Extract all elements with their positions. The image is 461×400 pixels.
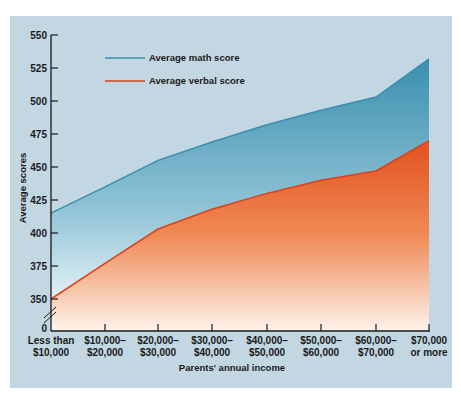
y-tick-label: 500	[30, 96, 47, 107]
legend-verbal-label: Average verbal score	[149, 75, 245, 86]
x-tick-label: $40,000–	[246, 335, 288, 346]
x-tick-label: $40,000	[194, 347, 231, 358]
y-tick-label: 475	[30, 129, 47, 140]
plot-areas	[51, 59, 429, 331]
y-tick-label: 350	[30, 294, 47, 305]
x-tick-label: $60,000	[303, 347, 340, 358]
y-tick-label: 0	[41, 323, 47, 334]
y-tick-label: 400	[30, 228, 47, 239]
y-tick-label: 450	[30, 162, 47, 173]
x-tick-label: or more	[410, 347, 448, 358]
x-axis-title: Parents' annual income	[179, 362, 285, 373]
x-tick-label: $60,000–	[355, 335, 397, 346]
y-tick-label: 550	[30, 30, 47, 41]
x-tick-label: $70,000	[411, 335, 448, 346]
x-tick-label: Less than	[28, 335, 75, 346]
x-tick-label: $20,000–	[137, 335, 179, 346]
x-tick-label: $10,000–	[84, 335, 126, 346]
x-tick-label: $30,000–	[191, 335, 233, 346]
x-tick-label: $50,000	[249, 347, 286, 358]
x-tick-label: $50,000–	[300, 335, 342, 346]
y-tick-label: 525	[30, 63, 47, 74]
x-tick-label: $10,000	[33, 347, 70, 358]
x-tick-label: $20,000	[87, 347, 124, 358]
y-tick-label: 375	[30, 261, 47, 272]
x-tick-label: $70,000	[358, 347, 395, 358]
x-tick-label: $30,000	[140, 347, 177, 358]
y-axis-title: Average scores	[17, 153, 28, 223]
score-income-chart: 5505255004754504254003753500 Less than$1…	[0, 0, 461, 400]
y-tick-label: 425	[30, 195, 47, 206]
legend-math-label: Average math score	[149, 52, 239, 63]
legend: Average math score Average verbal score	[105, 52, 245, 86]
